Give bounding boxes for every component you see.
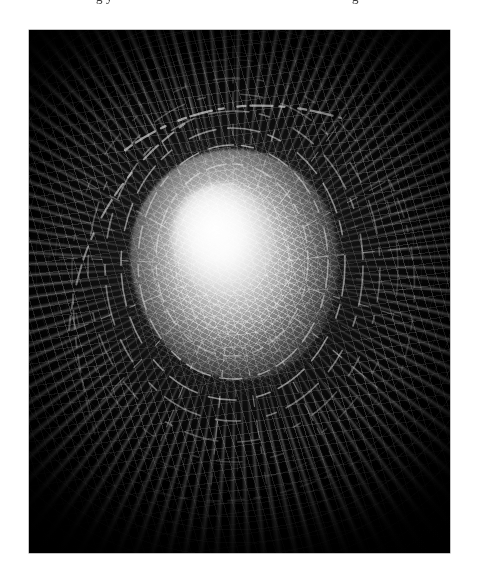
clipped-caption-right-fragment: g xyxy=(352,0,359,5)
clipped-caption-band: g y g xyxy=(0,0,479,14)
figure-image xyxy=(29,30,450,553)
clipped-caption-left-fragment: g y xyxy=(96,0,113,5)
